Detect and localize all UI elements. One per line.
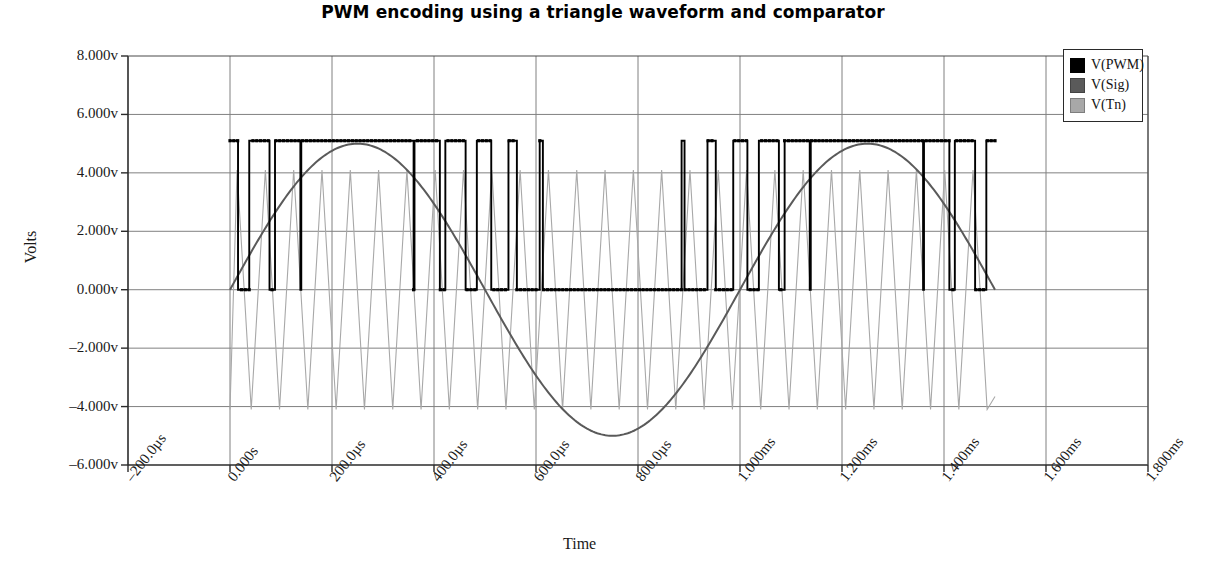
legend: V(PWM)V(Sig)V(Tn) <box>1063 49 1143 122</box>
x-axis-tick-label: 1.200ms <box>837 435 880 485</box>
x-axis-tick-label: 400.0µs <box>429 437 471 484</box>
legend-item-label: V(Tn) <box>1091 98 1126 112</box>
x-axis-tick-label: 200.0µs <box>327 437 369 484</box>
x-axis-tick-label: 0.000s <box>225 444 261 484</box>
legend-swatch-icon <box>1070 58 1085 73</box>
x-axis-tick-label: 1.000ms <box>735 435 778 485</box>
legend-swatch-icon <box>1070 78 1085 93</box>
x-axis-tick-label: 1.400ms <box>939 435 982 485</box>
legend-item-label: V(Sig) <box>1091 78 1129 92</box>
x-axis-tick-labels: –200.0µs0.000s200.0µs400.0µs600.0µs800.0… <box>0 0 1206 579</box>
legend-item[interactable]: V(PWM) <box>1070 55 1136 75</box>
x-axis-tick-label: –200.0µs <box>123 431 169 484</box>
x-axis-tick-label: 1.800ms <box>1143 435 1186 485</box>
legend-item-label: V(PWM) <box>1091 58 1144 72</box>
legend-swatch-icon <box>1070 98 1085 113</box>
x-axis-tick-label: 1.600ms <box>1041 435 1084 485</box>
chart-root: PWM encoding using a triangle waveform a… <box>0 0 1206 579</box>
legend-item[interactable]: V(Sig) <box>1070 75 1136 95</box>
x-axis-tick-label: 600.0µs <box>531 437 573 484</box>
x-axis-tick-label: 800.0µs <box>633 437 675 484</box>
legend-item[interactable]: V(Tn) <box>1070 95 1136 115</box>
